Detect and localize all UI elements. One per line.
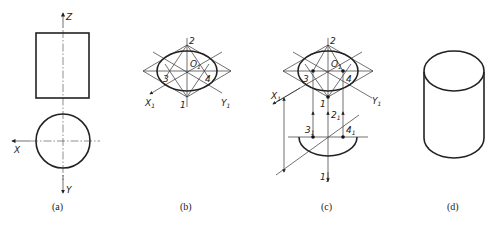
point-4-1-label: 41 <box>346 125 356 136</box>
x1-axis-label: X1 <box>144 98 155 109</box>
bottom-diagonal-line <box>276 115 359 175</box>
panel-d-finished-cylinder: (d) <box>424 51 484 213</box>
panel-b-four-center-ellipse: 2 O1 3 4 1 X1 Y1 (b) <box>143 36 231 213</box>
y1-axis-label: Y1 <box>372 96 381 107</box>
center-o1-label: O1 <box>331 59 342 70</box>
caption-a: (a) <box>52 201 63 213</box>
cylinder-top-ellipse <box>424 51 484 91</box>
point-1-label: 1 <box>180 100 186 110</box>
point-4-label: 4 <box>205 74 211 84</box>
point-3-label: 3 <box>303 74 309 84</box>
y-axis-label: Y <box>66 185 73 195</box>
x1-axis-label: X1 <box>270 91 281 102</box>
caption-b: (b) <box>180 201 192 213</box>
z-axis-label: Z <box>65 12 73 22</box>
construction-line <box>313 45 328 71</box>
point-3-label: 3 <box>163 74 169 84</box>
point-4-label: 4 <box>346 74 352 84</box>
y1-axis-label: Y1 <box>221 98 230 109</box>
caption-d: (d) <box>447 201 459 213</box>
panel-a-orthographic-views: Z X Y (a) <box>12 12 100 213</box>
center-o1-label: O1 <box>190 59 201 70</box>
panel-c-projection: 2 O1 3 4 1 X1 Y1 21 31 41 11 (c) <box>270 36 381 213</box>
point-1-label: 1 <box>320 99 326 109</box>
x1-axis-arrow <box>150 88 160 94</box>
x-axis-label: X <box>13 145 21 155</box>
point-4-1-dot <box>341 135 345 139</box>
cylinder-bottom-arc <box>424 138 484 158</box>
caption-c: (c) <box>321 201 332 213</box>
point-2-label: 2 <box>330 36 336 46</box>
front-view-rectangle <box>36 33 89 98</box>
point-2-1-label: 21 <box>331 110 341 121</box>
point-2-label: 2 <box>189 36 195 46</box>
cylinder-isometric-diagram: Z X Y (a) 2 O1 3 4 1 X1 Y1 (b) <box>0 0 493 225</box>
